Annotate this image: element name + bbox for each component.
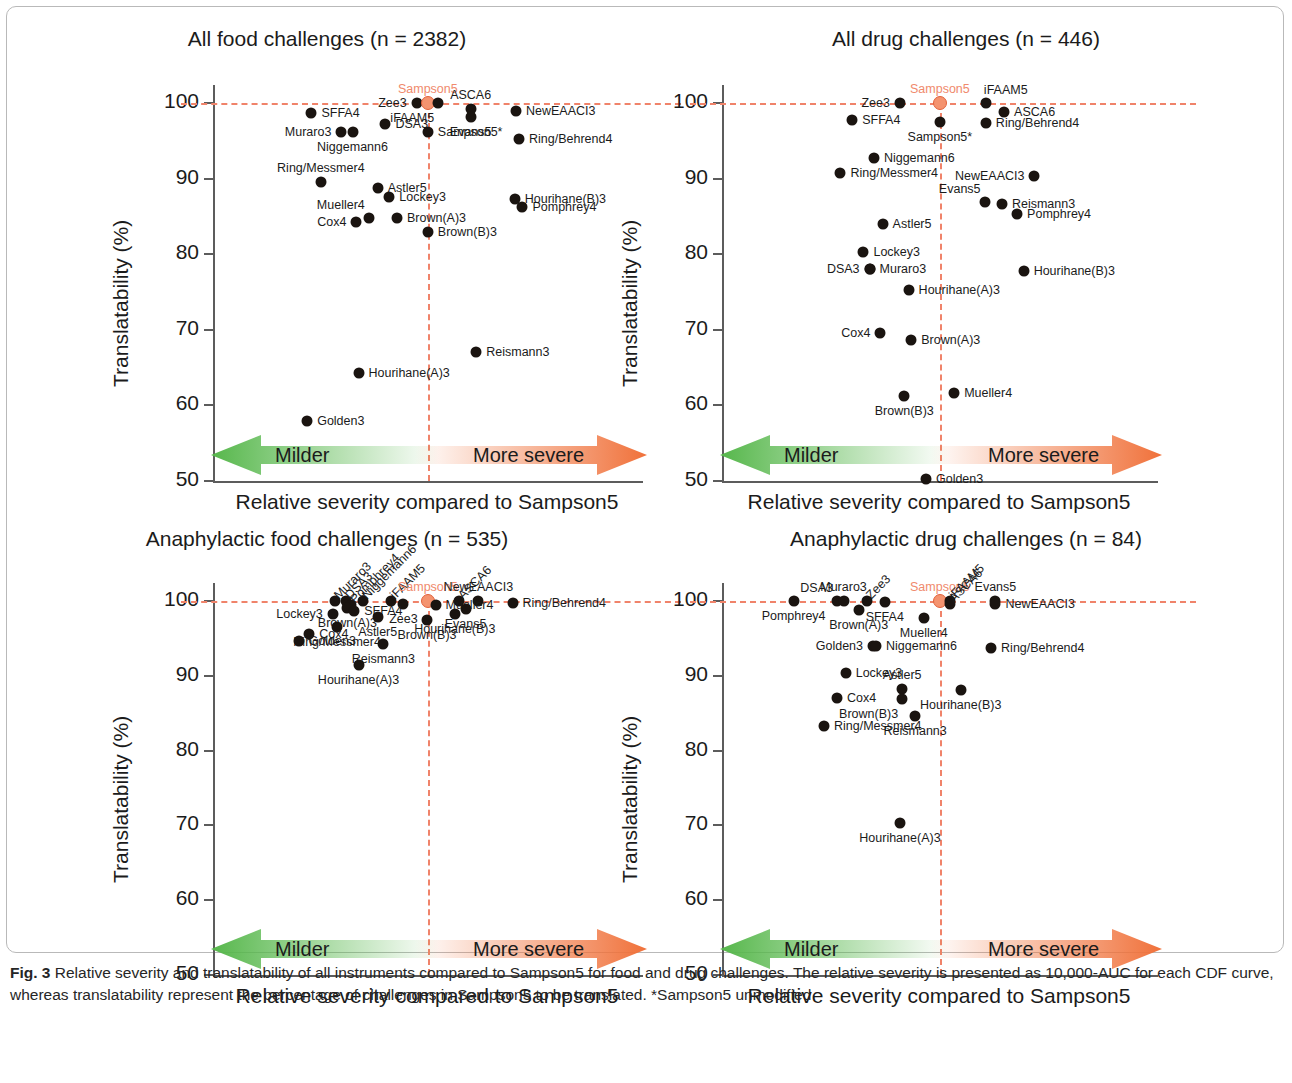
data-point — [353, 660, 364, 671]
more-severe-label: More severe — [988, 938, 1099, 961]
figure-caption: Fig. 3 Relative severity and translatabi… — [10, 962, 1282, 1006]
data-point — [832, 693, 843, 704]
point-label: Ring/Messmer4 — [850, 167, 938, 180]
data-point — [349, 605, 360, 616]
y-tick-label: 70 — [650, 811, 708, 835]
panel-anaphylactic-drug: Anaphylactic drug challenges (n = 84)506… — [647, 521, 1285, 1021]
y-tick-label: 70 — [141, 811, 199, 835]
data-point — [430, 599, 441, 610]
data-point — [372, 612, 383, 623]
panel-all-drug: All drug challenges (n = 446)50607080901… — [647, 21, 1285, 521]
data-point — [788, 596, 799, 607]
point-label: Zee3 — [864, 573, 893, 602]
point-label: Ring/Behrend4 — [523, 597, 606, 610]
point-label: Evans5 — [975, 581, 1017, 594]
point-label: Zee3 — [378, 97, 407, 110]
data-point — [894, 98, 905, 109]
point-label: Golden3 — [816, 640, 863, 653]
milder-label: Milder — [275, 444, 329, 467]
point-label: NewEAACI3 — [955, 170, 1024, 183]
point-label: Niggemann6 — [884, 152, 955, 165]
data-point — [980, 98, 991, 109]
point-label: DSA3 — [827, 263, 860, 276]
point-label: Niggemann6 — [886, 640, 957, 653]
y-axis-label: Translatability (%) — [618, 220, 642, 387]
data-point — [353, 367, 364, 378]
y-axis — [722, 85, 724, 481]
data-point — [471, 347, 482, 358]
point-label: Astler5 — [893, 218, 932, 231]
point-label: Cox4 — [847, 692, 876, 705]
data-point — [433, 98, 444, 109]
data-point — [507, 598, 518, 609]
y-tick — [204, 824, 213, 826]
y-tick-label: 100 — [141, 587, 199, 611]
data-point — [864, 264, 875, 275]
point-label: Hourihane(A)3 — [369, 367, 450, 380]
point-label: Sampson5 — [910, 83, 970, 96]
data-point — [302, 415, 313, 426]
y-tick-label: 90 — [650, 165, 708, 189]
data-point — [293, 635, 304, 646]
data-point — [517, 201, 528, 212]
data-point — [899, 391, 910, 402]
data-point — [465, 111, 476, 122]
y-tick-label: 80 — [650, 737, 708, 761]
panel-title: All drug challenges (n = 446) — [647, 27, 1285, 51]
data-point — [315, 176, 326, 187]
y-tick — [713, 899, 722, 901]
data-point — [986, 643, 997, 654]
point-label: Ring/Messmer4 — [277, 162, 365, 175]
panel-title: Anaphylactic food challenges (n = 535) — [7, 527, 647, 551]
y-tick — [204, 253, 213, 255]
point-label: ASCA6 — [450, 89, 491, 102]
y-tick-label: 50 — [141, 467, 199, 491]
point-label: Sampson5 — [398, 83, 458, 96]
data-point — [933, 96, 947, 110]
y-axis-label: Translatability (%) — [109, 716, 133, 883]
more-severe-label: More severe — [988, 444, 1099, 467]
data-point — [1018, 265, 1029, 276]
data-point — [511, 106, 522, 117]
point-label: Mueller4 — [317, 199, 365, 212]
point-label: Muraro3 — [285, 126, 332, 139]
point-label: Evans5 — [939, 183, 981, 196]
point-label: Hourihane(B)3 — [414, 623, 495, 636]
y-tick-label: 60 — [141, 886, 199, 910]
milder-label: Milder — [784, 938, 838, 961]
x-axis-label: Relative severity compared to Sampson5 — [179, 490, 675, 514]
point-label: Ring/Messmer4 — [834, 720, 922, 733]
y-tick — [713, 178, 722, 180]
point-label: Lockey3 — [276, 608, 323, 621]
point-label: Golden3 — [317, 415, 364, 428]
data-point — [990, 598, 1001, 609]
point-label: Astler5 — [883, 669, 922, 682]
data-point — [868, 153, 879, 164]
point-label: Mueller4 — [900, 627, 948, 640]
y-tick — [204, 404, 213, 406]
y-tick-label: 80 — [141, 737, 199, 761]
y-tick-label: 80 — [141, 240, 199, 264]
point-label: Pomphrey4 — [532, 201, 596, 214]
point-label: Golden3 — [936, 473, 983, 486]
data-point — [875, 327, 886, 338]
point-label: iFAAM5 — [984, 84, 1028, 97]
vertical-reference-line — [428, 601, 430, 975]
y-axis-label: Translatability (%) — [618, 716, 642, 883]
y-tick — [713, 404, 722, 406]
y-tick — [713, 253, 722, 255]
data-point — [840, 667, 851, 678]
point-label: Zee3 — [861, 97, 890, 110]
data-point — [818, 720, 829, 731]
point-label: SFFA4 — [866, 611, 904, 624]
data-point — [949, 388, 960, 399]
data-point — [894, 818, 905, 829]
panel-title: Anaphylactic drug challenges (n = 84) — [647, 527, 1285, 551]
point-label: Muraro3 — [880, 263, 927, 276]
data-point — [897, 693, 908, 704]
point-label: SFFA4 — [321, 107, 359, 120]
point-label: Brown(A)3 — [407, 212, 466, 225]
point-label: SFFA4 — [862, 114, 900, 127]
data-point — [906, 334, 917, 345]
y-tick-label: 100 — [650, 89, 708, 113]
